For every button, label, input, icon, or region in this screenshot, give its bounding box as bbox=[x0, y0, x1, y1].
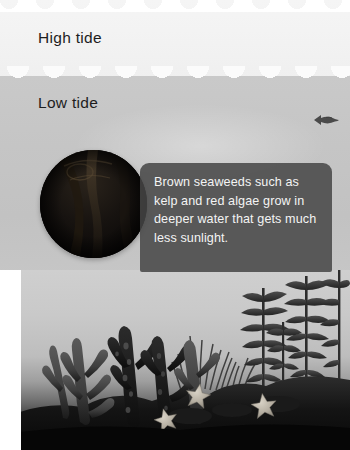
underwater-scene bbox=[0, 270, 350, 450]
page-left-margin bbox=[0, 270, 21, 450]
underwater-scene-illustration bbox=[20, 270, 350, 450]
wave-scallop-tide-divider bbox=[0, 66, 350, 80]
callout-box: Brown seaweeds such as kelp and red alga… bbox=[140, 163, 332, 272]
low-tide-label: Low tide bbox=[38, 94, 98, 112]
fish-icon bbox=[312, 112, 340, 128]
tide-zone-figure: High tide Low tide bbox=[0, 0, 350, 450]
wave-scallop-top-edge bbox=[0, 0, 350, 12]
callout-text: Brown seaweeds such as kelp and red alga… bbox=[154, 173, 319, 247]
inset-photo-brown-seaweed bbox=[40, 150, 147, 258]
high-tide-label: High tide bbox=[38, 29, 102, 47]
